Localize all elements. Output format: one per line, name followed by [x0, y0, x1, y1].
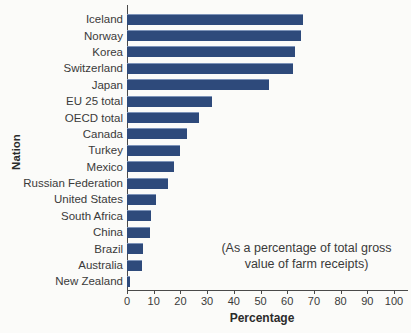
bar-row: Turkey: [0, 142, 411, 158]
bar: [127, 161, 174, 172]
bar-row: Iceland: [0, 11, 411, 27]
bar: [127, 46, 295, 57]
x-axis-title: Percentage: [187, 311, 337, 325]
bar-row: New Zealand: [0, 273, 411, 289]
bar: [127, 178, 168, 189]
x-tick-mark: [154, 290, 155, 294]
x-tick-label: 30: [192, 295, 222, 307]
x-tick-mark: [314, 290, 315, 294]
annotation-line-2: value of farm receipts): [245, 257, 369, 271]
x-tick-label: 70: [299, 295, 329, 307]
category-label: Canada: [0, 128, 127, 140]
x-tick-label: 0: [112, 295, 142, 307]
bar-row: United States: [0, 191, 411, 207]
x-tick-label: 50: [246, 295, 276, 307]
x-tick-mark: [127, 290, 128, 294]
x-tick-label: 10: [139, 295, 169, 307]
annotation: (As a percentage of total gross value of…: [203, 241, 410, 272]
bar-row: Norway: [0, 27, 411, 43]
x-tick-label: 60: [272, 295, 302, 307]
bar-row: OECD total: [0, 109, 411, 125]
bar: [127, 30, 301, 41]
bar-row: Canada: [0, 126, 411, 142]
bar-row: Russian Federation: [0, 175, 411, 191]
category-label: United States: [0, 193, 127, 205]
bar: [127, 63, 293, 74]
x-tick-label: 100: [379, 295, 409, 307]
category-label: Mexico: [0, 161, 127, 173]
x-tick-mark: [180, 290, 181, 294]
bar: [127, 243, 143, 254]
x-tick-label: 90: [352, 295, 382, 307]
category-label: Australia: [0, 259, 127, 271]
bar: [127, 227, 150, 238]
bar-row: China: [0, 224, 411, 240]
bar-chart-figure: Nation IcelandNorwayKoreaSwitzerlandJapa…: [0, 0, 411, 333]
x-tick-mark: [287, 290, 288, 294]
category-label: Brazil: [0, 243, 127, 255]
category-label: Korea: [0, 46, 127, 58]
bar: [127, 128, 187, 139]
annotation-line-1: (As a percentage of total gross: [221, 241, 391, 255]
x-tick-mark: [234, 290, 235, 294]
x-tick-label: 80: [326, 295, 356, 307]
bar: [127, 79, 269, 90]
x-tick-mark: [207, 290, 208, 294]
x-tick-mark: [261, 290, 262, 294]
category-label: Iceland: [0, 13, 127, 25]
category-label: EU 25 total: [0, 95, 127, 107]
bar: [127, 96, 212, 107]
x-tick-label: 40: [219, 295, 249, 307]
bar: [127, 276, 130, 287]
category-label: Switzerland: [0, 62, 127, 74]
category-label: Norway: [0, 30, 127, 42]
bar-row: Korea: [0, 44, 411, 60]
bar-row: EU 25 total: [0, 93, 411, 109]
x-tick-mark: [367, 290, 368, 294]
category-label: China: [0, 226, 127, 238]
bar-row: Mexico: [0, 159, 411, 175]
bar: [127, 145, 180, 156]
bar: [127, 194, 156, 205]
category-label: Japan: [0, 79, 127, 91]
x-axis-line: [127, 290, 408, 291]
category-label: New Zealand: [0, 275, 127, 287]
category-label: Russian Federation: [0, 177, 127, 189]
category-label: Turkey: [0, 144, 127, 156]
x-tick-mark: [341, 290, 342, 294]
x-tick-mark: [394, 290, 395, 294]
category-label: South Africa: [0, 210, 127, 222]
bar-row: Switzerland: [0, 60, 411, 76]
bar-row: South Africa: [0, 208, 411, 224]
bar: [127, 14, 303, 25]
category-label: OECD total: [0, 112, 127, 124]
bar: [127, 112, 199, 123]
bar: [127, 260, 142, 271]
bar-row: Japan: [0, 77, 411, 93]
bar: [127, 210, 151, 221]
x-tick-label: 20: [165, 295, 195, 307]
